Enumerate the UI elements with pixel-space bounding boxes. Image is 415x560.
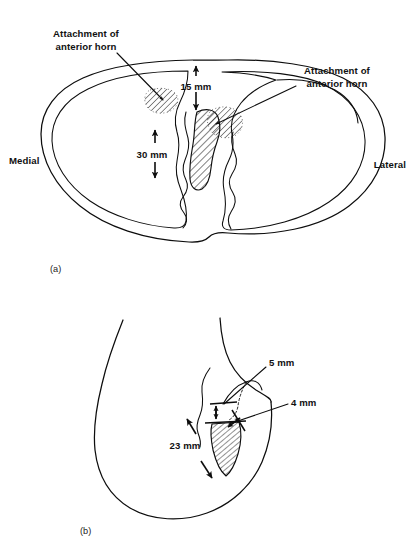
lateral-intercondylar-wavy-edge [228,132,236,229]
panel-b-group: 5 mm 4 mm 23 mm (b) [80,318,316,536]
condyle-upper-right-contour [220,318,271,402]
dimension-15mm-label: 15 mm [181,81,212,92]
panel-a-group: Attachment of anterior horn Attachment o… [9,28,406,274]
leader-line-right-callout [216,86,296,124]
condyle-outer-contour [94,320,271,519]
dimension-23mm-label: 23 mm [170,440,201,451]
callout-right-line1: Attachment of [304,65,370,76]
dimension-5mm-label: 5 mm [269,357,294,368]
anterior-horn-slope-contour [223,381,262,404]
dimension-4mm-label: 4 mm [291,397,316,408]
callout-right-line2: anterior horn [307,78,368,89]
dimension-30mm-label: 30 mm [137,149,168,160]
callout-left-line2: anterior horn [56,41,117,52]
figure-root: Attachment of anterior horn Attachment o… [0,0,415,560]
orientation-label-medial: Medial [9,155,39,166]
anatomical-figure-canvas: Attachment of anterior horn Attachment o… [0,0,415,560]
panel-label-b: (b) [80,526,91,536]
reference-arc-dashed [229,382,246,420]
callout-left-line1: Attachment of [53,28,119,39]
panel-label-a: (a) [50,264,61,274]
medial-intercondylar-wavy-edge [180,112,188,228]
medial-anterior-horn-patch [145,88,178,113]
orientation-label-lateral: Lateral [374,159,406,170]
anterior-horn-wedge-hatched [211,422,241,476]
condyle-intercondylar-wavy-edge [197,368,210,447]
upper-band-tick [210,402,237,404]
